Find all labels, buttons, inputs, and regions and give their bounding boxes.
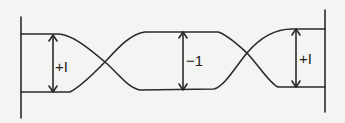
right-label: +I [299, 51, 312, 66]
left-label: +I [55, 59, 68, 74]
diagram-canvas: +I −1 +I [0, 0, 345, 123]
middle-label: −1 [186, 53, 203, 68]
crossing-diagram [0, 0, 345, 123]
